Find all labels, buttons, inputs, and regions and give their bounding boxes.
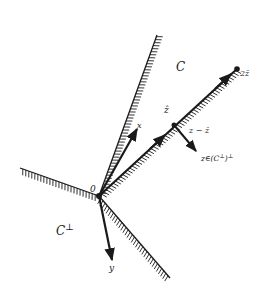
two-z-hat-arrow — [215, 74, 231, 89]
cone-diagram: 0 C C⊥ x y ẑ 2ẑ z − ẑ z∈(C⊥)⊥ — [0, 0, 259, 297]
z-hat-arrow — [150, 135, 165, 149]
origin-point — [96, 193, 102, 199]
two-z-hat-point — [234, 66, 240, 72]
cone-c-lower-boundary — [99, 68, 241, 197]
two-z-hat-label: 2ẑ — [239, 69, 250, 78]
origin-label: 0 — [90, 184, 96, 194]
cone-c-label: C — [176, 60, 185, 74]
polar-cone-left-boundary — [20, 168, 99, 201]
z-hat-label: ẑ — [163, 105, 169, 115]
polar-cone-label: C⊥ — [56, 222, 74, 238]
z-in-polar-polar-label: z∈(C⊥)⊥ — [200, 152, 233, 163]
z-hat-point — [172, 123, 177, 128]
z-minus-z-hat-label: z − ẑ — [188, 126, 210, 135]
y-vector-arrow — [99, 196, 112, 260]
y-label: y — [108, 263, 115, 273]
x-label: x — [137, 121, 142, 130]
